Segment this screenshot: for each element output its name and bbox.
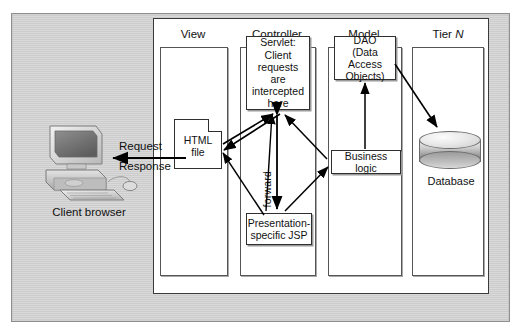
node-database-label: Database (403, 175, 499, 187)
html-file-line-2: file (191, 146, 204, 158)
column-header-tier-n: Tier N (410, 28, 486, 40)
client-browser-caption: Client browser (21, 206, 157, 218)
cylinder-bottom (419, 151, 481, 169)
tier-n-italic: N (455, 28, 463, 40)
node-business-logic[interactable]: Business logic (331, 150, 401, 174)
cylinder-top (419, 131, 481, 149)
node-servlet-label: Servlet:Clientrequests areinterceptedher… (249, 36, 307, 109)
column-header-view: View (156, 28, 230, 40)
html-file-line-1: HTML (184, 134, 213, 146)
flow-label-request: Request (119, 140, 162, 152)
node-servlet[interactable]: Servlet:Clientrequests areinterceptedher… (246, 36, 310, 110)
node-presentation-jsp-label: Presentation-specific JSP (248, 217, 310, 241)
node-html-file-label: HTML file (174, 119, 222, 169)
node-business-logic-label: Business logic (334, 150, 398, 174)
node-database[interactable] (419, 131, 481, 169)
node-html-file[interactable]: HTML file (174, 119, 222, 169)
node-dao[interactable]: DAO(Data AccessObjects) (334, 36, 396, 80)
architecture-panel: View Controller Model Tier N HTML file S… (153, 18, 489, 294)
node-dao-label: DAO(Data AccessObjects) (337, 34, 393, 83)
edge-label-forward: forward (261, 169, 273, 209)
node-presentation-jsp[interactable]: Presentation-specific JSP (246, 213, 312, 245)
flow-label-response: Response (119, 160, 171, 172)
tier-prefix: Tier (433, 28, 456, 40)
